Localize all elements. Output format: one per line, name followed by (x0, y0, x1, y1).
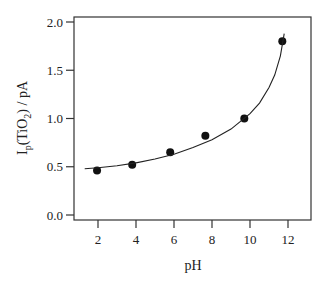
chart: 0.00.51.01.52.0 24681012 pH Ip(TiO2) / p… (0, 0, 329, 283)
y-label-main3: ) / pA (15, 80, 31, 114)
y-axis-label: Ip(TiO2) / pA (15, 80, 33, 155)
plot-frame (74, 17, 311, 220)
y-tick-label: 2.0 (47, 15, 63, 30)
x-tick-label: 4 (133, 232, 140, 247)
y-axis-ticks: 0.00.51.01.52.0 (47, 15, 74, 223)
x-axis-ticks: 24681012 (95, 220, 295, 247)
y-tick-label: 1.5 (47, 63, 63, 78)
x-tick-label: 10 (244, 232, 257, 247)
y-label-main2: (TiO (15, 119, 31, 146)
x-tick-label: 6 (171, 232, 178, 247)
y-tick-label: 1.0 (47, 111, 63, 126)
series-layer (85, 34, 287, 175)
y-tick-label: 0.5 (47, 159, 63, 174)
data-point (201, 132, 209, 140)
x-tick-label: 2 (95, 232, 102, 247)
y-tick-label: 0.0 (47, 208, 63, 223)
data-point (128, 161, 136, 169)
plot-area-border (74, 17, 311, 220)
x-tick-label: 12 (282, 232, 295, 247)
fit-curve (85, 34, 285, 169)
x-tick-label: 8 (209, 232, 216, 247)
x-axis-label: pH (184, 258, 201, 273)
